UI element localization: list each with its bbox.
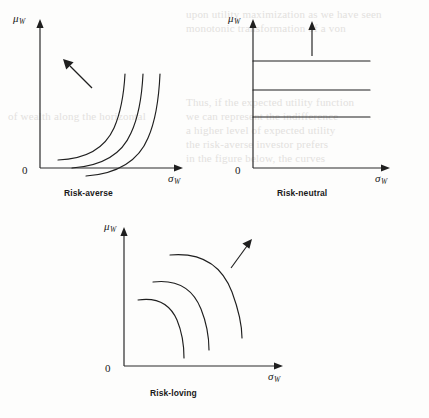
x-axis-label-risk-averse: σW (168, 172, 180, 184)
y-axis-arrowhead-icon (36, 19, 43, 28)
x-axis-arrowhead-icon (274, 362, 283, 369)
caption-risk-neutral: Risk-neutral (277, 188, 327, 198)
indifference-curve-2 (153, 281, 209, 350)
y-axis-arrowhead-icon (120, 227, 127, 236)
y-axis-label-risk-neutral: μW (228, 12, 240, 24)
plot-risk-neutral (215, 0, 429, 210)
x-axis-arrowhead-icon (381, 164, 390, 171)
y-axis-arrowhead-icon (249, 19, 256, 28)
utility-direction-arrowhead-icon (242, 239, 252, 249)
x-axis-arrowhead-icon (174, 164, 183, 171)
utility-direction-arrowhead-icon (308, 21, 315, 30)
caption-risk-averse: Risk-averse (64, 188, 113, 198)
panel-risk-averse: μW σW 0 Risk-averse (0, 0, 215, 210)
utility-direction-arrow-shaft (70, 66, 92, 88)
plot-risk-averse (0, 0, 215, 210)
origin-label-risk-neutral: 0 (235, 164, 241, 176)
y-axis-label-risk-averse: μW (13, 12, 25, 24)
indifference-curve-1 (138, 299, 184, 358)
y-axis-label-risk-loving: μW (104, 220, 116, 232)
origin-label-risk-loving: 0 (105, 362, 111, 374)
caption-risk-loving: Risk-loving (150, 388, 197, 398)
indifference-curve-3 (86, 74, 160, 176)
panel-risk-neutral: μW σW 0 Risk-neutral (215, 0, 429, 210)
plot-risk-loving (100, 210, 330, 418)
x-axis-label-risk-loving: σW (268, 370, 280, 382)
indifference-curve-2 (72, 74, 143, 168)
x-axis-label-risk-neutral: σW (375, 172, 387, 184)
utility-direction-arrow-shaft (231, 246, 247, 268)
panel-risk-loving: μW σW 0 Risk-loving (100, 210, 330, 418)
origin-label-risk-averse: 0 (22, 164, 28, 176)
